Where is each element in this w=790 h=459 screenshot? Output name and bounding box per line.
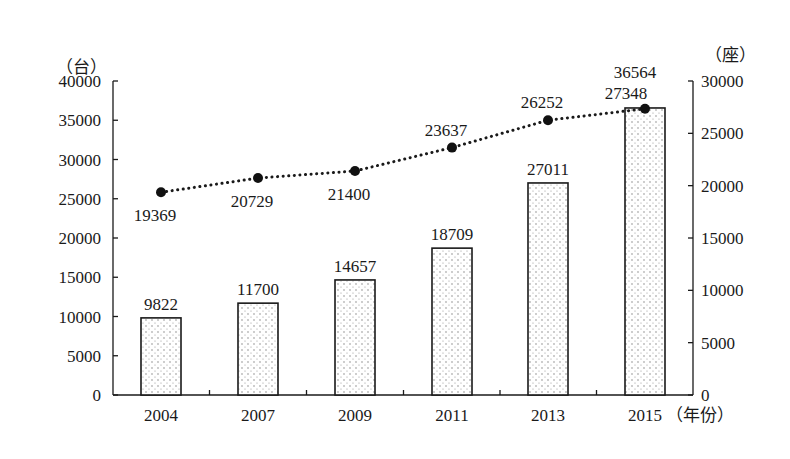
line-value-label: 26252 (521, 93, 564, 112)
line-point (543, 115, 553, 125)
line-point (350, 166, 360, 176)
bar-value-label: 18709 (431, 225, 474, 244)
bar-series: 98221170014657187092701136564 (141, 63, 665, 395)
line-value-label: 21400 (328, 185, 371, 204)
line-point (640, 104, 650, 114)
left-axis-tick-label: 35000 (59, 111, 102, 130)
line-value-label: 20729 (231, 192, 274, 211)
bar-value-label: 11700 (237, 280, 279, 299)
left-y-axis: 0500010000150002000025000300003500040000… (56, 58, 118, 405)
line-point (253, 173, 263, 183)
bar (238, 303, 278, 395)
bar (432, 248, 472, 395)
left-axis-tick-label: 20000 (59, 229, 102, 248)
right-y-axis: 050001000015000200002500030000（座） (688, 46, 756, 405)
right-axis-tick-label: 0 (701, 386, 710, 405)
right-axis-tick-label: 15000 (701, 229, 744, 248)
bar-value-label: 27011 (527, 160, 569, 179)
bar (335, 280, 375, 395)
combo-chart: 0500010000150002000025000300003500040000… (0, 0, 790, 459)
x-axis-tick-label: 2015 (628, 406, 662, 425)
x-axis-tick-label: 2007 (241, 406, 276, 425)
left-axis-tick-label: 5000 (67, 347, 101, 366)
line-value-label: 27348 (605, 84, 648, 103)
x-axis-tick-label: 2004 (144, 406, 179, 425)
right-axis-tick-label: 30000 (701, 72, 744, 91)
left-axis-tick-label: 0 (93, 386, 102, 405)
bar (528, 183, 568, 395)
bar-value-label: 14657 (334, 257, 377, 276)
left-axis-tick-label: 25000 (59, 190, 102, 209)
right-axis-tick-label: 10000 (701, 281, 744, 300)
line-value-label: 23637 (425, 121, 468, 140)
line-series: 193692072921400236372625227348 (134, 84, 650, 225)
left-axis-tick-label: 10000 (59, 308, 102, 327)
right-axis-tick-label: 25000 (701, 124, 744, 143)
right-axis-unit-label: （座） (705, 46, 756, 65)
right-axis-tick-label: 5000 (701, 334, 735, 353)
bar-value-label: 36564 (614, 63, 657, 82)
x-axis-tick-label: 2011 (435, 406, 468, 425)
bar (625, 108, 665, 395)
line-value-label: 19369 (134, 206, 177, 225)
left-axis-tick-label: 15000 (59, 268, 102, 287)
x-axis-tick-label: 2009 (338, 406, 372, 425)
bar-value-label: 9822 (144, 295, 178, 314)
bar (141, 318, 181, 395)
left-axis-tick-label: 30000 (59, 151, 102, 170)
right-axis-tick-label: 20000 (701, 177, 744, 196)
line-point (156, 187, 166, 197)
x-axis-tick-label: 2013 (531, 406, 565, 425)
dotted-line (161, 109, 645, 193)
left-axis-unit-label: （台） (56, 58, 107, 77)
x-axis-label: （年份） (666, 406, 734, 425)
line-point (447, 143, 457, 153)
